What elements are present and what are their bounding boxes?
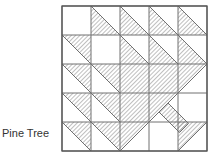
- quilt-cells: [62, 6, 207, 151]
- quilt-cell-ll: [149, 35, 178, 64]
- quilt-cell-ur: [62, 35, 91, 64]
- quilt-cell-ul: [120, 122, 149, 151]
- quilt-cell-ll: [178, 6, 207, 35]
- quilt-cell-ll: [149, 6, 178, 35]
- quilt-cell-full: [120, 93, 149, 122]
- quilt-cell-ur: [62, 122, 91, 151]
- quilt-cell-full: [120, 64, 149, 93]
- quilt-cell-ur: [91, 122, 120, 151]
- quilt-cell-ll: [91, 6, 120, 35]
- tree-trunk: [159, 103, 189, 133]
- quilt-cell-ul: [178, 64, 207, 93]
- quilt-cell-ur: [91, 64, 120, 93]
- quilt-cell-ll: [120, 35, 149, 64]
- quilt-cell-ur: [62, 64, 91, 93]
- quilt-cell-ur: [91, 93, 120, 122]
- pine-tree-quilt-block: [0, 0, 211, 158]
- quilt-cell-ll: [120, 6, 149, 35]
- quilt-cell-ur: [62, 93, 91, 122]
- quilt-cell-full: [149, 64, 178, 93]
- quilt-cell-ll: [178, 35, 207, 64]
